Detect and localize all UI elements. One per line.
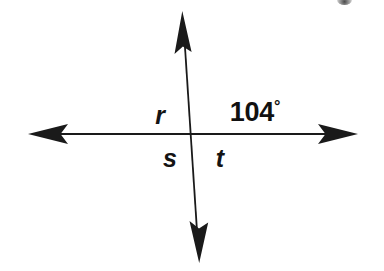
angle-label-s: s [163,146,177,171]
horizontal-line-group [28,124,358,144]
transversal-line [184,32,198,240]
diagram-canvas: 104° r s t [0,0,384,271]
geometry-figure [0,0,384,271]
bottom-arrowhead-icon [190,221,209,263]
top-arrowhead-icon [175,11,192,54]
angle-value: 104 [230,97,274,127]
angle-measure-label: 104° [230,99,281,126]
angle-label-r: r [155,103,165,128]
degree-symbol-icon: ° [274,98,280,115]
transversal-line-group [175,11,209,263]
angle-label-t: t [216,146,224,171]
